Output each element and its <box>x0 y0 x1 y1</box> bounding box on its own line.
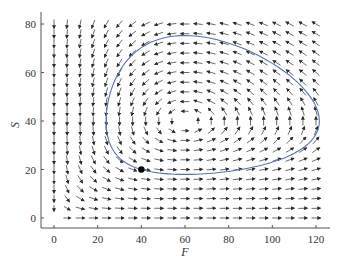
vector-arrow <box>79 39 81 48</box>
vector-arrow <box>220 32 229 34</box>
vector-arrow <box>233 51 241 54</box>
vector-arrow <box>155 90 163 95</box>
vector-arrow <box>298 178 307 180</box>
vector-arrow <box>91 166 96 173</box>
vector-arrow <box>234 98 240 104</box>
vector-arrow <box>259 22 267 26</box>
vector-arrow <box>167 159 176 160</box>
vector-arrow <box>247 70 255 75</box>
vector-arrow <box>207 42 216 44</box>
vector-arrow <box>92 136 94 145</box>
vector-arrow <box>155 149 164 152</box>
vector-arrow <box>286 41 294 46</box>
vector-arrow <box>79 58 80 67</box>
vector-arrow <box>76 196 84 200</box>
vector-field <box>54 20 321 219</box>
vector-arrow <box>207 23 216 25</box>
vector-arrow <box>78 165 82 173</box>
vector-arrow <box>301 98 306 106</box>
vector-arrow <box>117 146 122 153</box>
vector-arrow <box>141 198 150 199</box>
vector-arrow <box>286 51 294 56</box>
vector-arrow <box>207 90 215 93</box>
vector-arrow <box>207 62 216 64</box>
vector-arrow <box>155 99 162 105</box>
vector-arrow <box>262 127 266 135</box>
vector-arrow <box>220 179 229 180</box>
vector-arrow <box>79 49 81 58</box>
vector-arrow <box>194 81 203 83</box>
vector-arrow <box>312 198 321 199</box>
vector-arrow <box>273 22 281 26</box>
vector-arrow <box>194 91 203 93</box>
vector-arrow <box>115 178 123 181</box>
vector-arrow <box>141 188 150 189</box>
vector-arrow <box>273 70 280 75</box>
vector-arrow <box>117 59 122 67</box>
vector-arrow <box>195 129 202 132</box>
vector-arrow <box>299 168 308 170</box>
vector-arrow <box>118 136 122 144</box>
vector-arrow <box>89 197 98 200</box>
vector-arrow <box>220 61 228 64</box>
vector-arrow <box>93 126 94 135</box>
x-axis-label: F <box>180 245 189 259</box>
vector-arrow <box>116 167 124 172</box>
vector-arrow <box>235 127 240 134</box>
vector-arrow <box>194 43 203 44</box>
vector-arrow <box>260 61 268 66</box>
vector-arrow <box>300 137 306 144</box>
vector-arrow <box>169 109 175 113</box>
vector-arrow <box>234 89 241 94</box>
vector-arrow <box>105 78 108 87</box>
vector-arrow <box>92 20 95 28</box>
vector-arrow <box>104 39 108 47</box>
vector-arrow <box>130 69 136 76</box>
vector-arrow <box>144 107 147 115</box>
vector-arrow <box>301 107 304 116</box>
vector-arrow <box>117 40 122 47</box>
y-tick-label: 80 <box>25 18 37 30</box>
vector-arrow <box>66 165 68 174</box>
y-tick-label: 20 <box>25 164 37 176</box>
vector-arrow <box>207 149 216 151</box>
vector-arrow <box>220 52 229 55</box>
x-tick-label: 100 <box>264 233 281 245</box>
vector-arrow <box>105 88 107 97</box>
vector-arrow <box>194 72 203 73</box>
vector-arrow <box>78 175 83 183</box>
vector-arrow <box>312 22 320 27</box>
phase-plane-chart: 020406080100120 020406080 F S <box>0 0 347 269</box>
vector-arrow <box>207 52 216 54</box>
vector-arrow <box>67 49 68 58</box>
vector-arrow <box>142 148 150 153</box>
vector-arrow <box>154 23 163 26</box>
vector-arrow <box>312 178 321 180</box>
vector-arrow <box>194 24 203 25</box>
vector-arrow <box>247 80 254 85</box>
initial-point-marker <box>138 166 144 172</box>
vector-arrow <box>312 51 319 56</box>
y-tick-label: 40 <box>25 115 37 127</box>
vector-arrow <box>102 198 111 200</box>
vector-arrow <box>167 43 176 44</box>
x-tick-label: 60 <box>180 233 192 245</box>
vector-arrow <box>207 81 216 84</box>
vector-arrow <box>167 33 176 34</box>
vector-arrow <box>155 52 164 55</box>
vector-arrow <box>207 33 216 35</box>
vector-arrow <box>142 51 150 56</box>
vector-arrow <box>233 189 242 190</box>
vector-arrow <box>246 32 254 35</box>
x-tick-label: 20 <box>92 233 104 245</box>
vector-arrow <box>298 188 307 189</box>
vector-arrow <box>77 186 83 192</box>
vector-arrow <box>261 98 266 105</box>
vector-arrow <box>259 188 268 189</box>
vector-arrow <box>286 158 294 161</box>
vector-arrow <box>167 72 176 74</box>
vector-arrow <box>167 62 176 64</box>
vector-arrow <box>79 155 82 164</box>
vector-arrow <box>79 146 81 155</box>
vector-arrow <box>169 129 175 133</box>
